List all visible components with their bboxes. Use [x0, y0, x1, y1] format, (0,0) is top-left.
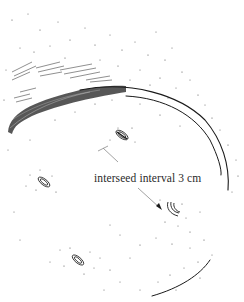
arrowhead-icon [156, 203, 162, 210]
seed-right [167, 202, 180, 216]
interseed-interval-label: interseed interval 3 cm [94, 172, 201, 184]
seed-upper-center [114, 128, 129, 141]
soil-layer-arc [80, 87, 228, 296]
seed-spacing-illustration [0, 0, 244, 302]
seed-left [37, 175, 52, 188]
soil-stipple [3, 14, 238, 291]
seed-lower [71, 253, 86, 267]
soil-band [8, 86, 126, 134]
